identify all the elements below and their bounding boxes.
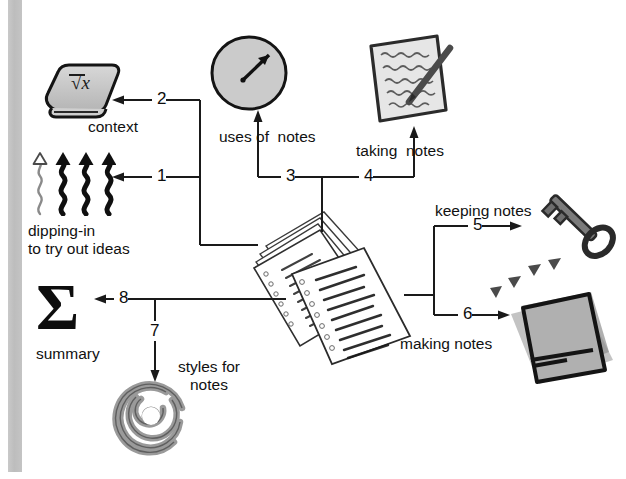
connector-number-3-text: 3: [286, 166, 295, 186]
slide-canvas: √x: [0, 0, 626, 479]
label-summary: summary: [36, 345, 100, 362]
pages-stack-icon: [244, 208, 419, 366]
connector-number-8-text: 8: [119, 288, 128, 308]
spiral-icon: [110, 370, 192, 460]
book-icon: √x: [36, 62, 128, 124]
label-try-out-ideas: to try out ideas: [28, 240, 130, 257]
notecard-stack-icon: [505, 286, 621, 396]
connector-number-1-text: 1: [157, 166, 166, 186]
connector-number-2-text: 2: [157, 89, 166, 109]
sigma-icon: Σ: [36, 276, 79, 338]
connector-number-6-text: 6: [463, 304, 472, 324]
label-context: context: [88, 118, 138, 135]
connector-number-4-text: 4: [364, 166, 373, 186]
label-dipping-in: dipping-in: [28, 222, 95, 239]
label-uses-of-notes: uses of notes: [219, 128, 316, 145]
connector-number-7-text: 7: [150, 321, 159, 341]
key-icon: [536, 182, 620, 264]
gauge-circle-icon: [209, 33, 289, 113]
label-styles-notes: notes: [190, 376, 228, 393]
label-making-notes: making notes: [400, 335, 492, 352]
squiggle-arrows-icon: [30, 152, 116, 216]
slide-left-margin: [0, 0, 8, 479]
sigma-glyph: Σ: [36, 270, 79, 343]
label-taking-notes: taking notes: [356, 142, 444, 159]
notepad-pencil-icon: [360, 34, 456, 134]
label-keeping-notes: keeping notes: [435, 202, 532, 219]
slide-left-edge-band: [8, 0, 22, 472]
label-styles-for: styles for: [178, 358, 240, 375]
